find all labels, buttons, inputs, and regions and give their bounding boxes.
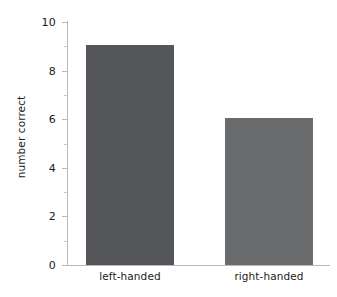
x-tick-label-left-handed: left-handed <box>86 270 174 282</box>
plot-area <box>67 20 330 265</box>
bar-chart-figure: number correct 10 8 6 4 2 0 left-handed … <box>0 0 337 297</box>
y-tick-0 <box>62 265 67 266</box>
y-tick-label-6: 6 <box>49 114 56 125</box>
x-tick-label-right-handed: right-handed <box>225 270 313 282</box>
y-tick-label-2: 2 <box>49 211 56 222</box>
bar-right-handed[interactable] <box>225 118 313 265</box>
y-axis-label: number correct <box>15 27 27 247</box>
x-axis-spine <box>67 265 330 266</box>
bar-left-handed[interactable] <box>86 45 174 266</box>
y-tick-label-4: 4 <box>49 163 56 174</box>
y-tick-label-0: 0 <box>49 260 56 271</box>
y-tick-label-10: 10 <box>42 17 56 28</box>
y-tick-label-8: 8 <box>49 66 56 77</box>
